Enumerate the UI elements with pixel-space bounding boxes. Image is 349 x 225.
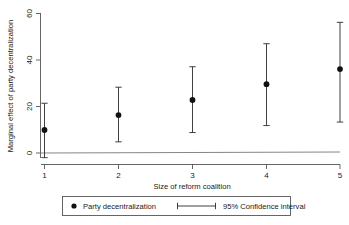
x-tick-label-4: 4 [264,171,269,180]
zero-reference-line [41,152,341,153]
data-point-group-1 [41,103,47,157]
x-tick-label-5: 5 [338,171,343,180]
legend-marker-point-icon [71,203,76,208]
point-marker [264,81,270,87]
x-tick-label-2: 2 [116,171,121,180]
y-tick-label-40: 40 [25,55,34,64]
data-point-group-2 [115,87,121,142]
legend: Party decentralization 95% Confidence in… [63,197,306,216]
legend-label-party-decentralization: Party decentralization [83,202,156,211]
point-marker [116,112,122,118]
data-point-group-3 [189,67,195,133]
y-axis-title: Marginal effect of party decentralizatio… [6,20,15,152]
data-series-group [41,22,343,157]
point-marker [337,66,343,72]
marginal-effects-figure: 60 40 20 0 Marginal effect of party dece… [0,0,349,225]
y-tick-label-60: 60 [25,9,34,18]
legend-marker-ci-icon [177,203,216,209]
point-marker [42,127,48,133]
chart-canvas: 60 40 20 0 Marginal effect of party dece… [0,0,349,225]
y-tick-label-20: 20 [25,102,34,111]
x-tick-label-1: 1 [42,171,47,180]
y-tick-label-0: 0 [25,150,34,155]
x-axis-title: Size of reform coalition [153,182,230,191]
legend-label-confidence-interval: 95% Confidence interval [223,202,306,211]
data-point-group-5 [337,22,343,122]
point-marker [190,97,196,103]
x-tick-label-3: 3 [190,171,195,180]
data-point-group-4 [263,44,269,126]
